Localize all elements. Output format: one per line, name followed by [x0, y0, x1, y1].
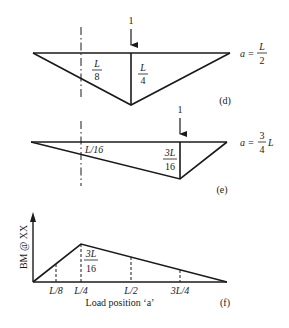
peak-ordinate-num: L	[139, 62, 146, 73]
case-lhs: a =	[240, 137, 254, 148]
y-axis-arrow-icon	[30, 212, 36, 222]
tick-label: L/2	[123, 285, 137, 296]
influence-line-figure: 1 L 8 L 4 a = L 2 (d) 1 L/16 3L 16 a = 3…	[0, 0, 289, 328]
tick-label: L/8	[48, 285, 62, 296]
diagram-tag: (e)	[216, 184, 227, 196]
case-den: 4	[260, 144, 265, 155]
diagram-tag: (f)	[220, 297, 230, 309]
peak-ordinate-den: 4	[141, 75, 146, 86]
section-ordinate-den: 8	[95, 71, 100, 82]
influence-line	[33, 244, 227, 282]
peak-ordinate-den: 16	[165, 161, 175, 172]
peak-ordinate-num: 3L	[85, 248, 97, 259]
case-lhs: a =	[240, 48, 254, 59]
bm-diagram-d: 1 L 8 L 4 a = L 2 (d)	[33, 15, 267, 107]
case-num: 3	[260, 130, 265, 141]
diagram-tag: (d)	[219, 95, 231, 107]
case-den: 2	[260, 55, 265, 66]
bm-diagram-e: 1 L/16 3L 16 a = 3 4 L (e)	[31, 104, 274, 196]
y-axis-label: BM @ XX	[18, 224, 29, 269]
tick-label: L/4	[73, 285, 87, 296]
case-num: L	[258, 41, 265, 52]
section-ordinate-label: L/16	[84, 144, 103, 155]
bm-triangle	[31, 142, 227, 179]
case-suffix: L	[267, 137, 274, 148]
load-label: 1	[178, 104, 183, 115]
influence-line-f: 3L 16 L/8 L/4 L/2 3L/4 Load position ‘a’…	[18, 212, 230, 309]
peak-ordinate-num: 3L	[164, 147, 176, 158]
x-axis-label: Load position ‘a’	[86, 297, 155, 308]
tick-label: 3L/4	[170, 285, 189, 296]
load-label: 1	[129, 15, 134, 26]
peak-ordinate-den: 16	[86, 263, 96, 274]
section-ordinate-num: L	[93, 58, 100, 69]
